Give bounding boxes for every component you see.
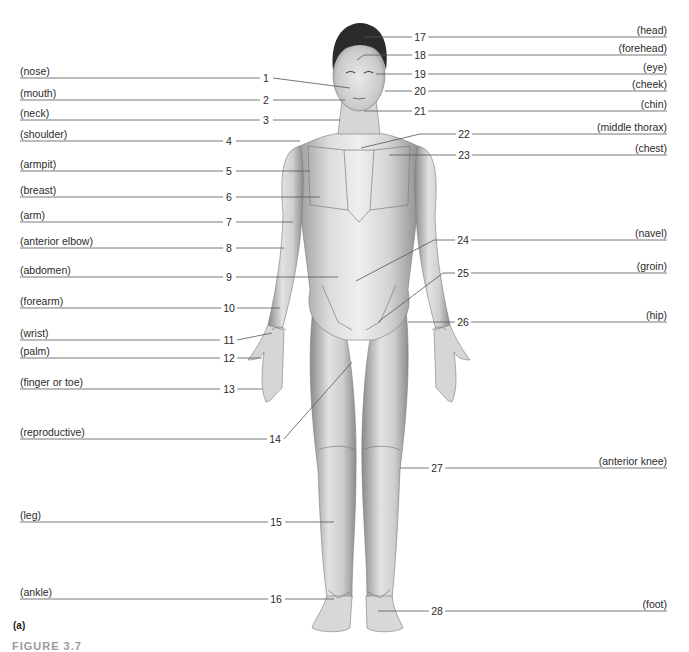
label-number-12: 12 (221, 352, 237, 364)
term-reproductive: (reproductive) (20, 426, 85, 438)
label-number-1: 1 (261, 72, 271, 84)
label-number-20: 20 (412, 85, 428, 97)
term-arm: (arm) (20, 209, 45, 221)
term-groin: (groin) (637, 260, 667, 272)
term-anterior-knee: (anterior knee) (599, 455, 667, 467)
label-number-16: 16 (268, 593, 284, 605)
term-neck: (neck) (20, 107, 49, 119)
label-number-17: 17 (412, 31, 428, 43)
term-palm: (palm) (20, 345, 50, 357)
term-middle-thorax: (middle thorax) (597, 121, 667, 133)
label-number-11: 11 (222, 334, 237, 346)
term-chest: (chest) (635, 142, 667, 154)
term-leg: (leg) (20, 509, 41, 521)
term-chin: (chin) (641, 98, 667, 110)
label-number-24: 24 (455, 234, 471, 246)
label-number-4: 4 (224, 135, 234, 147)
term-shoulder: (shoulder) (20, 128, 67, 140)
term-forehead: (forehead) (619, 42, 667, 54)
panel-label: (a) (13, 620, 25, 631)
term-abdomen: (abdomen) (20, 264, 71, 276)
term-ankle: (ankle) (20, 586, 52, 598)
term-anterior-elbow: (anterior elbow) (20, 235, 93, 247)
label-number-10: 10 (221, 302, 237, 314)
term-foot: (foot) (642, 598, 667, 610)
label-number-28: 28 (429, 605, 445, 617)
label-number-23: 23 (456, 149, 472, 161)
term-armpit: (armpit) (20, 158, 56, 170)
label-number-2: 2 (261, 94, 271, 106)
label-number-13: 13 (221, 383, 237, 395)
label-number-8: 8 (224, 242, 234, 254)
label-number-21: 21 (412, 105, 428, 117)
label-number-27: 27 (429, 462, 445, 474)
term-breast: (breast) (20, 184, 56, 196)
term-navel: (navel) (635, 227, 667, 239)
label-number-14: 14 (267, 433, 283, 445)
label-number-5: 5 (224, 165, 234, 177)
label-number-6: 6 (224, 191, 234, 203)
term-forearm: (forearm) (20, 295, 63, 307)
label-number-18: 18 (412, 49, 428, 61)
term-cheek: (cheek) (632, 78, 667, 90)
label-number-19: 19 (412, 68, 428, 80)
term-wrist: (wrist) (20, 327, 49, 339)
label-number-3: 3 (261, 114, 271, 126)
label-number-25: 25 (455, 267, 471, 279)
term-nose: (nose) (20, 65, 50, 77)
term-eye: (eye) (643, 61, 667, 73)
figure-caption: FIGURE 3.7 (12, 640, 82, 652)
label-number-22: 22 (456, 128, 472, 140)
term-mouth: (mouth) (20, 87, 56, 99)
label-number-26: 26 (455, 316, 471, 328)
label-number-15: 15 (268, 516, 284, 528)
label-number-9: 9 (224, 271, 234, 283)
term-hip: (hip) (646, 309, 667, 321)
label-number-7: 7 (224, 216, 234, 228)
term-finger-or-toe: (finger or toe) (20, 376, 83, 388)
term-head: (head) (637, 24, 667, 36)
